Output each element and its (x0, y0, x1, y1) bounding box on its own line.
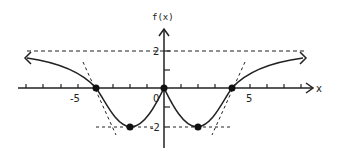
tick-label-neg5: -5 (70, 93, 80, 104)
tick-label-neg2: -2 (150, 122, 160, 133)
tick-label-0: 0 (153, 93, 159, 104)
function-curve (27, 58, 303, 127)
function-graph: f(x) x -5 0 5 2 -2 (0, 0, 337, 160)
tick-label-5: 5 (246, 93, 252, 104)
x-axis-label: x (316, 83, 322, 94)
y-axis-label: f(x) (152, 12, 174, 22)
tick-label-2: 2 (153, 46, 159, 57)
